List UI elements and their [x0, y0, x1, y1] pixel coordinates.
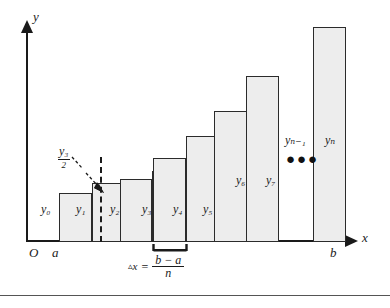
- y-axis-label: y: [33, 10, 39, 23]
- x-axis-label: x: [362, 231, 368, 244]
- upper-bound-label: b: [330, 246, 337, 259]
- figure-canvas: y x O a b y₀ y₁ y₂ y₃ y₄ y₅ y₆ y₇ yₙ₋₁ y…: [0, 0, 390, 308]
- bar-label-4: y₄: [173, 203, 183, 215]
- bar-label-n: yₙ: [325, 134, 335, 146]
- ellipsis-indicator: ●●●: [286, 152, 319, 167]
- midpoint-fraction-annotation: y₃ 2: [57, 145, 71, 170]
- annotation-arrow-icon: [70, 155, 120, 205]
- delta-x-fraction: b − a n: [152, 254, 184, 279]
- bar-label-7: y₇: [266, 174, 276, 186]
- bar-rect-4: [153, 158, 186, 242]
- fraction-numerator: y₃: [57, 145, 71, 158]
- delta-x-variable: x: [133, 261, 138, 272]
- bar-label-6: y₆: [236, 174, 246, 186]
- bar-label-5: y₅: [203, 203, 213, 215]
- bar-label-n-minus-1: yₙ₋₁: [285, 134, 306, 146]
- equals-sign: =: [141, 261, 148, 273]
- y-axis-arrowhead-icon: [21, 20, 33, 33]
- x-axis-arrowhead-icon: [345, 235, 358, 247]
- delta-x-formula: ▵ x = b − a n: [128, 254, 184, 279]
- delta-x-bracket-icon: [152, 243, 190, 252]
- lower-bound-label: a: [52, 246, 59, 259]
- y-axis-line: [26, 30, 28, 242]
- fraction-denominator: 2: [57, 161, 71, 170]
- bar-label-3: y₃: [142, 203, 152, 215]
- bar-rect-7: [246, 76, 279, 242]
- origin-label: O: [29, 246, 38, 259]
- bottom-divider: [0, 295, 390, 296]
- bar-label-0: y₀: [41, 203, 51, 215]
- delta-x-denominator: n: [152, 267, 184, 279]
- delta-x-numerator: b − a: [152, 254, 184, 266]
